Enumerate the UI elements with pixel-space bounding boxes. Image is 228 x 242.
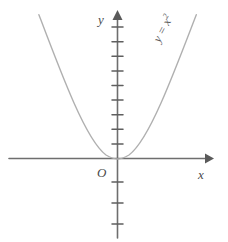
y-axis-label: y xyxy=(98,13,104,26)
x-axis-label: x xyxy=(198,168,204,181)
x-axis-arrowhead xyxy=(205,154,214,164)
plot-canvas xyxy=(0,0,228,242)
y-axis-arrowhead xyxy=(113,10,123,20)
graph-figure: x y O y = x2 xyxy=(0,0,228,242)
origin-label: O xyxy=(97,166,106,179)
